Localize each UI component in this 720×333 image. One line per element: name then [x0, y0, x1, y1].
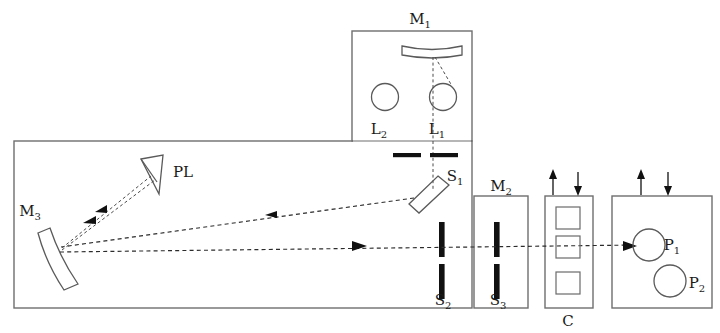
label-s2: S2 [435, 291, 452, 311]
beam-m1-to-l1 [435, 57, 452, 86]
flow-arrow-p-up [637, 169, 645, 195]
flow-arrow-p-down [664, 172, 672, 196]
arrowhead-toward-m3 [265, 211, 277, 218]
cell-square-bottom [556, 272, 580, 294]
label-p2-text: P [689, 274, 699, 292]
arrowhead-into-p1 [623, 241, 637, 251]
label-l1: L1 [429, 120, 445, 140]
label-pl: PL [173, 163, 193, 181]
m2-housing [474, 196, 528, 308]
aperture-bar-right [430, 153, 458, 157]
label-p1-sub: 1 [674, 245, 680, 256]
label-m3-text: M [19, 202, 34, 220]
port-p1 [633, 229, 665, 261]
label-m2-text: M [490, 177, 505, 195]
label-m2: M2 [490, 177, 512, 197]
label-l2-text: L [371, 120, 381, 138]
label-s3: S3 [490, 291, 507, 311]
label-s2-text: S [435, 291, 445, 309]
label-m1: M1 [409, 10, 431, 30]
label-m2-sub: 2 [505, 186, 511, 197]
label-l1-text: L [429, 120, 439, 138]
slit-s2-upper [439, 222, 445, 257]
beam-m3-to-pl-b [62, 180, 155, 250]
label-l2: L2 [371, 120, 387, 140]
port-p2 [654, 265, 686, 297]
label-p2-sub: 2 [699, 283, 705, 294]
label-l1-sub: 1 [439, 129, 445, 140]
label-s3-sub: 3 [500, 300, 506, 311]
arrowhead-pl-b [83, 216, 96, 224]
cell-square-top [556, 207, 580, 229]
label-m1-text: M [409, 10, 424, 28]
label-p1: P1 [664, 236, 680, 256]
lens-l2 [372, 84, 399, 111]
main-housing [14, 141, 472, 308]
label-p2: P2 [689, 274, 705, 294]
s1-tilted-mirror [409, 176, 449, 213]
aperture-bar-left [393, 153, 421, 157]
label-p1-text: P [664, 236, 674, 254]
c-housing [545, 196, 593, 308]
cell-square-middle [556, 236, 580, 258]
m3-curved-mirror [38, 228, 78, 290]
label-s1: S1 [447, 167, 464, 187]
beam-m3-to-p1-horizontal [60, 245, 636, 252]
flow-arrow-c-up [549, 169, 557, 195]
diagram-canvas: M1 L2 L1 S1 M2 M3 PL S2 S3 C P1 P2 [0, 0, 720, 333]
flow-arrow-c-down [574, 172, 582, 196]
lens-l1 [430, 84, 457, 111]
label-m3-sub: 3 [34, 211, 40, 222]
label-s2-sub: 2 [445, 300, 451, 311]
label-s3-text: S [490, 291, 500, 309]
label-c: C [562, 312, 573, 330]
label-s1-text: S [447, 167, 457, 185]
m1-concave-mirror [402, 46, 462, 58]
label-s1-sub: 1 [457, 176, 463, 187]
label-m3: M3 [19, 202, 41, 222]
arrowhead-horizontal-mid [352, 241, 367, 251]
label-m1-sub: 1 [424, 19, 430, 30]
label-l2-sub: 2 [381, 129, 387, 140]
optical-setup-figure: M1 L2 L1 S1 M2 M3 PL S2 S3 C P1 P2 [0, 0, 720, 333]
slit-s3-upper [494, 222, 500, 257]
arrowhead-pl-a [95, 205, 107, 213]
